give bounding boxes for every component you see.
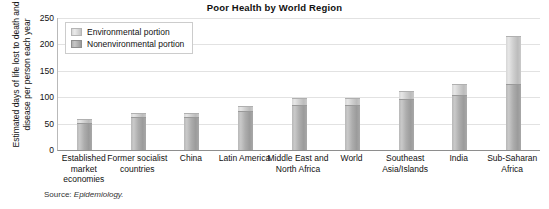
y-tick-label: 150 [24, 66, 54, 76]
bar-segment-nonenvironmental [506, 84, 521, 150]
bar [452, 84, 467, 150]
bar-segment-nonenvironmental [184, 117, 199, 150]
y-tick-label: 250 [24, 13, 54, 23]
bar-segment-environmental [399, 91, 414, 99]
bar-segment-nonenvironmental [345, 105, 360, 150]
y-tick-label: 200 [24, 39, 54, 49]
bar [345, 98, 360, 150]
bar [399, 91, 414, 150]
bar-segment-environmental [292, 98, 307, 105]
y-tick-label: 50 [24, 119, 54, 129]
bar-segment-nonenvironmental [77, 123, 92, 150]
bar [238, 106, 253, 150]
chart-title: Poor Health by World Region [0, 2, 549, 13]
bar [131, 113, 146, 150]
source-name: Epidemiology. [74, 190, 124, 199]
bar [292, 98, 307, 150]
chart-legend: Environmental portion Nonenvironmental p… [65, 22, 193, 54]
bar [184, 113, 199, 150]
source-prefix: Source: [44, 190, 74, 199]
y-tick-label: 100 [24, 92, 54, 102]
bar-segment-environmental [506, 36, 521, 84]
x-tick-label: Sub-Saharan Africa [479, 153, 545, 174]
bar-segment-environmental [452, 84, 467, 95]
legend-item: Environmental portion [71, 26, 184, 38]
bar-segment-nonenvironmental [238, 111, 253, 150]
bar-segment-nonenvironmental [452, 95, 467, 150]
chart-figure: Poor Health by World Region Estimated da… [0, 0, 549, 209]
legend-item: Nonenvironmental portion [71, 38, 184, 50]
bar-segment-nonenvironmental [131, 117, 146, 150]
legend-swatch-environmental [71, 28, 82, 36]
bar-segment-nonenvironmental [292, 105, 307, 150]
legend-swatch-nonenvironmental [71, 40, 82, 48]
source-note: Source: Epidemiology. [44, 190, 123, 199]
gridline [58, 18, 540, 19]
legend-label-nonenvironmental: Nonenvironmental portion [87, 39, 184, 49]
gridline [58, 71, 540, 72]
legend-label-environmental: Environmental portion [87, 27, 170, 37]
bar-segment-nonenvironmental [399, 99, 414, 150]
y-tick-label: 0 [24, 145, 54, 155]
bar [506, 36, 521, 150]
bar [77, 119, 92, 150]
bar-segment-environmental [345, 98, 360, 105]
